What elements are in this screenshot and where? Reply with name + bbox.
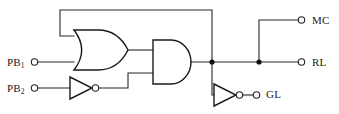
label-pb2-text: PB [7, 82, 21, 94]
not-gate-pb2 [70, 77, 92, 99]
label-pb1-text: PB [7, 56, 21, 68]
circuit-schematic-canvas [0, 0, 339, 114]
label-pb1: PB1 [7, 57, 25, 68]
wire-mc-branch [259, 20, 298, 62]
terminal-pb1[interactable] [31, 59, 37, 65]
junction-dot-mc-branch [256, 59, 261, 64]
not-gate-gl-bubble [236, 92, 242, 98]
wire-inverter-to-and [99, 73, 153, 88]
not-gate-pb2-bubble [92, 85, 98, 91]
not-gate-gl [214, 84, 236, 106]
terminal-pb2[interactable] [31, 85, 37, 91]
or-gate [74, 30, 128, 70]
junction-dot-and-output [209, 59, 214, 64]
logic-circuit-diagram: PB1 PB2 MC RL GL [0, 0, 339, 114]
label-rl: RL [312, 57, 326, 68]
and-gate [153, 40, 191, 84]
label-pb2: PB2 [7, 83, 25, 94]
terminal-gl[interactable] [253, 92, 259, 98]
label-mc: MC [312, 15, 330, 26]
terminal-rl[interactable] [298, 59, 304, 65]
label-gl: GL [266, 89, 281, 100]
terminal-mc[interactable] [298, 17, 304, 23]
label-pb1-subscript: 1 [21, 61, 25, 70]
label-pb2-subscript: 2 [21, 87, 25, 96]
